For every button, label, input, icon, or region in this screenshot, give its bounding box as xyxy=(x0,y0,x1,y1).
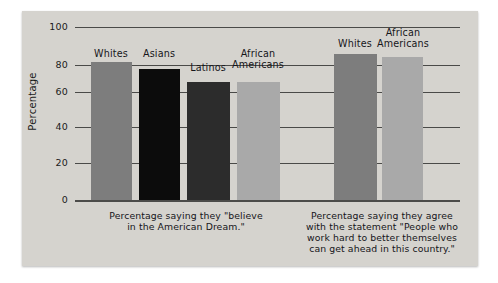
bar-label-asians: Asians xyxy=(129,48,189,59)
caption-right-line2: with the statement "People who xyxy=(296,221,468,233)
bar-whites-work-hard xyxy=(334,54,377,200)
bar-label-african-americans-1-line2: Americans xyxy=(228,59,288,70)
y-tick-label-0: 0 xyxy=(36,194,68,205)
bar-whites-believe xyxy=(91,62,132,200)
bar-african-americans-believe xyxy=(237,82,280,200)
x-axis-baseline xyxy=(75,200,460,202)
bar-label-african-americans-1-line1: African xyxy=(228,48,288,59)
y-tick-label-40: 40 xyxy=(36,121,68,132)
bar-african-americans-work-hard xyxy=(382,57,423,200)
caption-right-line1: Percentage saying they agree xyxy=(296,210,468,222)
bar-label-african-americans-2-line2: Americans xyxy=(373,38,433,49)
y-tick-label-60: 60 xyxy=(36,86,68,97)
y-tick-label-80: 80 xyxy=(36,59,68,70)
plot-area: Percentage 100 80 60 40 20 0 Whites Asia… xyxy=(0,0,498,283)
caption-right-line3: work hard to better themselves xyxy=(296,232,468,244)
caption-left-line1: Percentage saying they "believe xyxy=(88,210,284,222)
caption-left-line2: in the American Dream." xyxy=(88,221,284,233)
bar-label-african-americans-2-line1: African xyxy=(373,27,433,38)
figure: Percentage 100 80 60 40 20 0 Whites Asia… xyxy=(0,0,498,283)
y-tick-label-100: 100 xyxy=(36,21,68,32)
bar-latinos-believe xyxy=(187,82,230,200)
y-tick-label-20: 20 xyxy=(36,157,68,168)
caption-right-line4: can get ahead in this country." xyxy=(296,243,468,255)
bar-asians-believe xyxy=(139,69,180,200)
